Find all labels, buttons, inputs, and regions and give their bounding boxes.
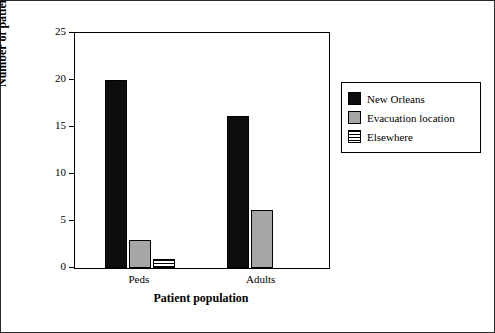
bar — [129, 240, 151, 268]
x-axis-label: Patient population — [1, 291, 401, 306]
legend-swatch-elsewhere — [348, 130, 361, 143]
y-tick-label: 15 — [46, 120, 66, 131]
y-tick-label: 25 — [46, 26, 66, 37]
y-axis-label: Number of patients — [0, 0, 10, 87]
plot-area — [74, 32, 330, 269]
chart-figure: Number of patients 0510152025 PedsAdults… — [0, 0, 495, 333]
legend-label-elsewhere: Elsewhere — [367, 131, 413, 143]
y-tick-label: 5 — [46, 214, 66, 225]
legend-label-new-orleans: New Orleans — [367, 93, 425, 105]
y-tick-label: 20 — [46, 73, 66, 84]
y-tick-mark — [69, 79, 74, 80]
bar — [153, 259, 175, 268]
y-tick-mark — [69, 267, 74, 268]
legend-item: Elsewhere — [348, 127, 475, 146]
legend-swatch-evacuation-location — [348, 111, 361, 124]
y-tick-label: 10 — [46, 167, 66, 178]
bar — [227, 116, 249, 268]
bar — [105, 80, 127, 268]
legend-item: Evacuation location — [348, 108, 475, 127]
legend-label-evacuation-location: Evacuation location — [367, 112, 455, 124]
x-tick-label: Adults — [221, 273, 301, 285]
y-tick-mark — [69, 173, 74, 174]
legend-swatch-new-orleans — [348, 92, 361, 105]
chart-legend: New Orleans Evacuation location Elsewher… — [341, 82, 481, 153]
y-tick-mark — [69, 220, 74, 221]
bar — [251, 210, 273, 268]
y-tick-mark — [69, 32, 74, 33]
y-tick-mark — [69, 126, 74, 127]
legend-item: New Orleans — [348, 89, 475, 108]
x-tick-label: Peds — [99, 273, 179, 285]
y-tick-label: 0 — [46, 261, 66, 272]
